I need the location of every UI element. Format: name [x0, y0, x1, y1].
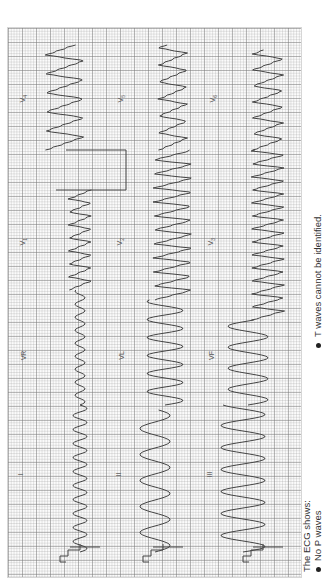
lead-label-v5: V5 — [117, 95, 126, 102]
row2-II-VL-V2-V5-segment-3 — [153, 150, 191, 300]
row1-I-VR-V1-V4-segment-2 — [75, 290, 85, 405]
lead-label-v1: V1 — [19, 238, 28, 245]
row3-III-VF-V3-V6-segment-3 — [251, 150, 285, 320]
row2-II-VL-V2-V5-segment-2 — [147, 300, 182, 405]
row3-III-VF-V3-V6-segment-1 — [221, 405, 265, 552]
bullet-icon — [316, 567, 321, 572]
caption-bullet-text: T waves cannot be identified. — [312, 214, 323, 337]
lead-label-v6: V6 — [209, 95, 218, 102]
row3-III-VF-V3-V6-segment-4 — [252, 50, 283, 150]
lead-label-v4: V4 — [19, 95, 28, 102]
lead-label-iii: III — [206, 472, 213, 478]
row1-I-VR-V1-V4-segment-4 — [45, 45, 83, 150]
caption-bullet-1: No P waves — [312, 510, 323, 572]
lead-label-v2: V2 — [116, 238, 125, 245]
row2-II-VL-V2-V5-segment-1 — [140, 410, 170, 552]
lead-label-vl: VL — [118, 351, 125, 360]
lead-label-i: I — [17, 474, 24, 476]
row1-I-VR-V1-V4-segment-1 — [73, 405, 87, 552]
row2-II-VL-V2-V5-segment-4 — [158, 45, 188, 150]
calibration-step-marker — [56, 150, 126, 190]
caption-bullet-text: No P waves — [312, 510, 323, 561]
row3-III-VF-V3-V6-segment-2 — [228, 320, 268, 405]
figure-caption: The ECG shows: No P waves T waves cannot… — [300, 0, 332, 578]
ecg-waveforms — [45, 45, 284, 552]
calibration-pulses — [60, 544, 283, 562]
ecg-traces — [0, 0, 332, 584]
row1-I-VR-V1-V4-segment-3 — [68, 190, 91, 290]
caption-heading: The ECG shows: — [301, 500, 312, 572]
bullet-icon — [316, 343, 321, 348]
caption-bullet-2: T waves cannot be identified. — [312, 214, 323, 348]
lead-label-ii: II — [115, 473, 122, 477]
lead-label-v3: V3 — [207, 238, 216, 245]
lead-label-vr: VR — [20, 351, 27, 361]
lead-label-vf: VF — [208, 351, 215, 360]
